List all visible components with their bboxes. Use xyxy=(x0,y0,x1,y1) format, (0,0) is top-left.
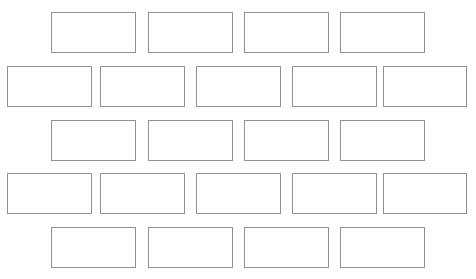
brick-label xyxy=(293,67,376,106)
brick-label xyxy=(149,121,232,160)
brick-label xyxy=(384,67,466,106)
brick-cell[interactable] xyxy=(51,227,136,268)
brick-label xyxy=(341,13,424,52)
brick-cell[interactable] xyxy=(100,66,185,107)
brick-cell[interactable] xyxy=(148,12,233,53)
brick-cell[interactable] xyxy=(244,227,329,268)
brick-label xyxy=(52,228,135,267)
brick-label xyxy=(293,174,376,213)
brick-cell[interactable] xyxy=(340,12,425,53)
brick-cell[interactable] xyxy=(7,173,92,214)
brick-label xyxy=(101,174,184,213)
brick-wall-diagram xyxy=(0,0,476,279)
brick-cell[interactable] xyxy=(244,120,329,161)
brick-cell[interactable] xyxy=(51,12,136,53)
brick-label xyxy=(52,121,135,160)
brick-cell[interactable] xyxy=(196,66,281,107)
brick-label xyxy=(101,67,184,106)
brick-label xyxy=(52,13,135,52)
brick-label xyxy=(245,228,328,267)
brick-label xyxy=(8,174,91,213)
brick-label xyxy=(245,13,328,52)
brick-cell[interactable] xyxy=(244,12,329,53)
brick-cell[interactable] xyxy=(383,173,467,214)
brick-cell[interactable] xyxy=(148,227,233,268)
brick-cell[interactable] xyxy=(340,120,425,161)
brick-label xyxy=(149,13,232,52)
brick-cell[interactable] xyxy=(148,120,233,161)
brick-cell[interactable] xyxy=(100,173,185,214)
brick-cell[interactable] xyxy=(340,227,425,268)
brick-label xyxy=(197,174,280,213)
brick-label xyxy=(245,121,328,160)
brick-cell[interactable] xyxy=(292,173,377,214)
brick-cell[interactable] xyxy=(292,66,377,107)
brick-label xyxy=(384,174,466,213)
brick-label xyxy=(149,228,232,267)
brick-label xyxy=(341,121,424,160)
brick-cell[interactable] xyxy=(383,66,467,107)
brick-label xyxy=(341,228,424,267)
brick-cell[interactable] xyxy=(196,173,281,214)
brick-cell[interactable] xyxy=(51,120,136,161)
brick-cell[interactable] xyxy=(7,66,92,107)
brick-label xyxy=(8,67,91,106)
brick-label xyxy=(197,67,280,106)
